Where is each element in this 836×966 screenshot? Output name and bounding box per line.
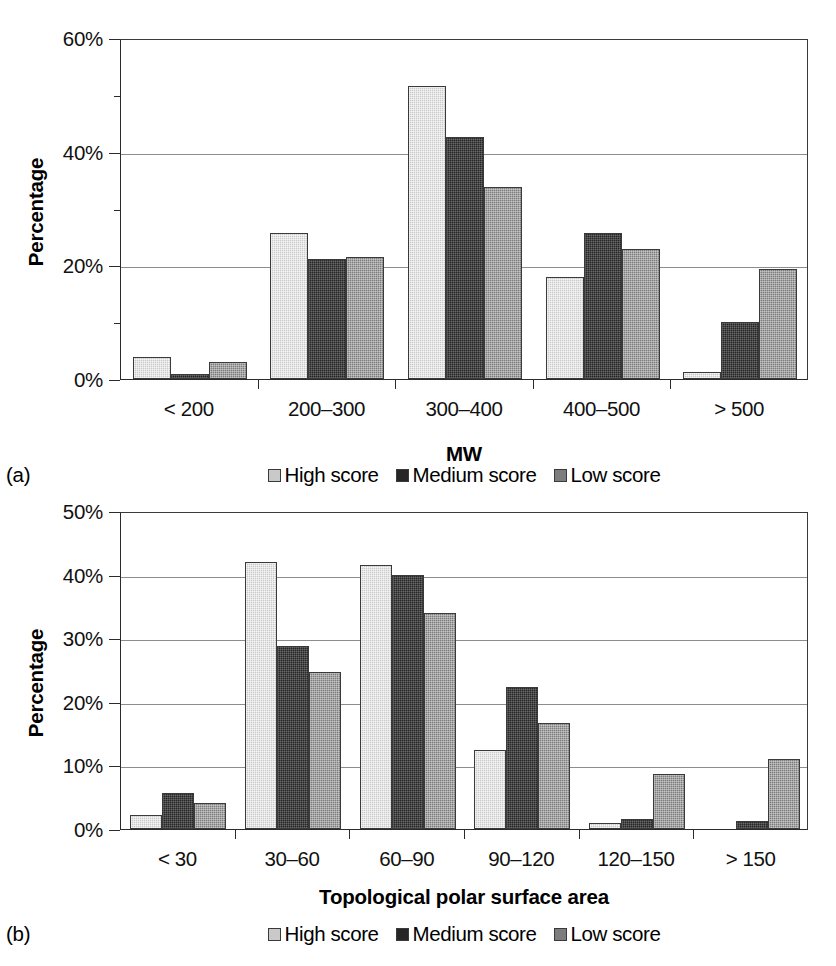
x-axis-tick-label: 200–300 bbox=[258, 397, 396, 421]
legend-label: Low score bbox=[571, 463, 661, 487]
x-axis-tick-label: 120–150 bbox=[579, 847, 694, 871]
chart-b: 0%10%20%30%40%50% < 3030–6060–9090–12012… bbox=[0, 488, 836, 848]
legend-swatch-medium-score bbox=[396, 469, 409, 482]
panel-letter-a: (a) bbox=[6, 463, 30, 487]
y-axis-minor-tick bbox=[114, 210, 120, 211]
bar-high-score bbox=[589, 823, 621, 829]
x-axis-tick-label: < 200 bbox=[120, 397, 258, 421]
bar-low-score bbox=[622, 249, 660, 379]
y-axis-tick bbox=[109, 639, 120, 640]
bar-medium-score bbox=[277, 646, 309, 829]
plot-area-b bbox=[120, 512, 808, 830]
legend-label: High score bbox=[285, 922, 379, 946]
bar-medium-score bbox=[162, 793, 194, 829]
bar-medium-score bbox=[506, 687, 538, 829]
bar-high-score bbox=[683, 372, 721, 379]
y-axis-tick bbox=[109, 830, 120, 831]
y-axis-tick bbox=[109, 266, 120, 267]
bar-high-score bbox=[408, 86, 446, 379]
x-axis-tick-label: 30–60 bbox=[235, 847, 350, 871]
y-axis-tick-label: 20% bbox=[17, 256, 103, 277]
x-axis-tick-label: 90–120 bbox=[464, 847, 579, 871]
legend-b: High scoreMedium scoreLow score bbox=[120, 922, 808, 946]
y-axis-tick bbox=[109, 512, 120, 513]
legend-label: High score bbox=[285, 463, 379, 487]
y-axis-tick bbox=[109, 703, 120, 704]
x-axis-tick bbox=[464, 830, 465, 839]
y-axis-tick bbox=[109, 380, 120, 381]
bar-low-score bbox=[759, 269, 797, 379]
panel-letter-b: (b) bbox=[6, 922, 30, 946]
x-axis-tick bbox=[395, 380, 396, 389]
x-axis-tick-label: 300–400 bbox=[395, 397, 533, 421]
bar-low-score bbox=[209, 362, 247, 379]
x-axis-tick bbox=[670, 380, 671, 389]
bar-medium-score bbox=[736, 821, 768, 829]
x-axis-tick bbox=[258, 380, 259, 389]
bar-high-score bbox=[245, 562, 277, 829]
y-axis-tick bbox=[109, 153, 120, 154]
legend-swatch-low-score bbox=[554, 469, 567, 482]
legend-label: Low score bbox=[571, 922, 661, 946]
x-axis-tick-label: 60–90 bbox=[349, 847, 464, 871]
bar-low-score bbox=[484, 187, 522, 379]
x-axis-tick-label: > 150 bbox=[693, 847, 808, 871]
legend-item-low-score: Low score bbox=[554, 463, 661, 487]
bar-low-score bbox=[653, 774, 685, 829]
bar-low-score bbox=[424, 613, 456, 829]
chart-a: 0%20%40%60% < 200200–300300–400400–500> … bbox=[0, 0, 836, 400]
bar-high-score bbox=[360, 565, 392, 829]
gridline bbox=[121, 577, 807, 578]
legend-item-low-score: Low score bbox=[554, 922, 661, 946]
legend-a: High scoreMedium scoreLow score bbox=[120, 463, 808, 487]
y-axis-minor-tick bbox=[114, 96, 120, 97]
y-axis-minor-tick bbox=[114, 323, 120, 324]
y-axis-tick bbox=[109, 39, 120, 40]
x-axis-tick bbox=[235, 830, 236, 839]
y-axis-tick-label: 40% bbox=[17, 566, 103, 587]
bar-low-score bbox=[346, 257, 384, 379]
y-axis-tick bbox=[109, 766, 120, 767]
x-axis-tick bbox=[533, 380, 534, 389]
plot-area-a bbox=[120, 39, 808, 380]
bar-high-score bbox=[130, 815, 162, 829]
bar-medium-score bbox=[308, 259, 346, 379]
legend-item-medium-score: Medium score bbox=[396, 463, 537, 487]
legend-swatch-medium-score bbox=[396, 928, 409, 941]
legend-swatch-high-score bbox=[268, 928, 281, 941]
bar-low-score bbox=[768, 759, 800, 829]
bar-high-score bbox=[133, 357, 171, 379]
y-axis-tick-label: 50% bbox=[17, 502, 103, 523]
legend-label: Medium score bbox=[413, 922, 537, 946]
gridline bbox=[121, 704, 807, 705]
bar-medium-score bbox=[621, 819, 653, 829]
y-axis-tick-label: 0% bbox=[17, 370, 103, 391]
x-axis-tick bbox=[693, 830, 694, 839]
bar-low-score bbox=[194, 803, 226, 829]
legend-item-medium-score: Medium score bbox=[396, 922, 537, 946]
bar-low-score bbox=[538, 723, 570, 829]
bar-medium-score bbox=[171, 374, 209, 379]
y-axis-tick-label: 20% bbox=[17, 693, 103, 714]
x-axis-tick-label: > 500 bbox=[670, 397, 808, 421]
legend-label: Medium score bbox=[413, 463, 537, 487]
bar-medium-score bbox=[392, 575, 424, 829]
bar-medium-score bbox=[721, 322, 759, 379]
legend-swatch-low-score bbox=[554, 928, 567, 941]
bar-low-score bbox=[309, 672, 341, 829]
legend-swatch-high-score bbox=[268, 469, 281, 482]
x-axis-tick-label: 400–500 bbox=[533, 397, 671, 421]
figure-panel-b: Percentage 0%10%20%30%40%50% < 3030–6060… bbox=[0, 488, 836, 966]
bar-high-score bbox=[546, 277, 584, 379]
y-axis-tick bbox=[109, 576, 120, 577]
gridline bbox=[121, 767, 807, 768]
x-axis-tick bbox=[349, 830, 350, 839]
y-axis-tick-label: 10% bbox=[17, 756, 103, 777]
x-axis-title-b: Topological polar surface area bbox=[120, 885, 808, 909]
y-axis-tick-label: 40% bbox=[17, 143, 103, 164]
bar-high-score bbox=[474, 750, 506, 830]
x-axis-tick bbox=[579, 830, 580, 839]
y-axis-tick-label: 60% bbox=[17, 29, 103, 50]
y-axis-tick-label: 0% bbox=[17, 820, 103, 841]
bar-medium-score bbox=[584, 233, 622, 379]
